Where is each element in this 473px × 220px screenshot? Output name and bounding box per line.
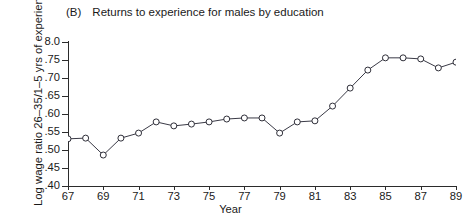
x-axis-tick-label: 69 bbox=[88, 190, 118, 202]
data-point bbox=[330, 103, 336, 109]
series-line bbox=[68, 58, 456, 155]
data-point bbox=[224, 116, 230, 122]
x-axis-tick-label: 85 bbox=[370, 190, 400, 202]
data-point bbox=[153, 119, 159, 125]
data-point bbox=[259, 115, 265, 121]
x-axis-tick-label: 75 bbox=[194, 190, 224, 202]
x-axis-title: Year bbox=[0, 203, 473, 215]
data-point bbox=[188, 121, 194, 127]
x-axis-tick-label: 89 bbox=[441, 190, 471, 202]
data-point bbox=[206, 119, 212, 125]
data-point bbox=[312, 118, 318, 124]
data-point bbox=[83, 135, 89, 141]
y-axis-tick-label: .55 bbox=[26, 126, 60, 137]
data-point bbox=[277, 130, 283, 136]
x-axis-tick-label: 71 bbox=[124, 190, 154, 202]
data-point bbox=[68, 136, 71, 142]
data-point bbox=[136, 130, 142, 136]
y-axis-tick-label: .75 bbox=[26, 54, 60, 65]
data-point bbox=[171, 123, 177, 129]
data-point bbox=[100, 152, 106, 158]
x-axis-line bbox=[68, 186, 457, 187]
title-text: Returns to experience for males by educa… bbox=[92, 6, 323, 18]
data-point bbox=[241, 115, 247, 121]
data-point bbox=[294, 119, 300, 125]
data-point bbox=[435, 65, 441, 71]
data-point bbox=[418, 56, 424, 62]
x-axis-tick-label: 87 bbox=[406, 190, 436, 202]
data-point bbox=[347, 85, 353, 91]
plot-area bbox=[68, 42, 456, 186]
chart-figure: (B) Returns to experience for males by e… bbox=[0, 0, 473, 220]
x-axis-tick-label: 83 bbox=[335, 190, 365, 202]
x-axis-tick-label: 67 bbox=[53, 190, 83, 202]
y-axis-tick-label: .60 bbox=[26, 108, 60, 119]
x-axis-tick-label: 77 bbox=[229, 190, 259, 202]
data-point bbox=[118, 135, 124, 141]
y-axis-tick-label: .70 bbox=[26, 72, 60, 83]
data-point bbox=[400, 55, 406, 61]
data-point bbox=[453, 59, 456, 65]
x-axis-tick-label: 81 bbox=[300, 190, 330, 202]
y-axis-tick-label: .50 bbox=[26, 144, 60, 155]
y-axis-tick-labels: .40.45.50.55.60.65.70.758.0 bbox=[22, 0, 60, 220]
x-axis-title-text: Year bbox=[219, 203, 242, 215]
data-point bbox=[382, 55, 388, 61]
y-axis-tick-label: .65 bbox=[26, 90, 60, 101]
chart-title: (B) Returns to experience for males by e… bbox=[66, 6, 324, 18]
panel-letter: (B) bbox=[66, 6, 81, 18]
data-point bbox=[365, 67, 371, 73]
series-markers bbox=[68, 55, 456, 158]
y-axis-tick-label: 8.0 bbox=[26, 36, 60, 47]
x-axis-tick-label: 73 bbox=[159, 190, 189, 202]
x-axis-tick-label: 79 bbox=[265, 190, 295, 202]
y-axis-tick-label: .45 bbox=[26, 162, 60, 173]
